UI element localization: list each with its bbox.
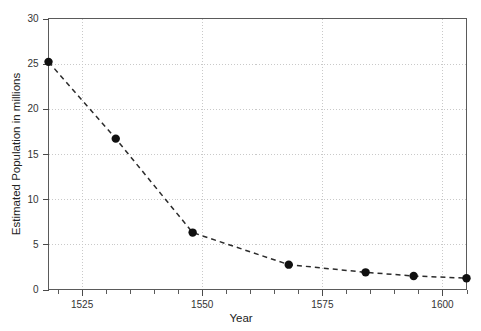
plot-background (0, 0, 481, 331)
data-point-marker-1568 (285, 260, 293, 268)
y-tick-label: 20 (27, 103, 39, 114)
chart-canvas: 1525155015751600 051015202530 Year Estim… (0, 0, 481, 331)
y-tick-label: 25 (27, 58, 39, 69)
y-tick-label: 0 (33, 284, 39, 295)
y-tick-label: 15 (27, 149, 39, 160)
y-tick-label: 30 (27, 13, 39, 24)
data-point-marker-1605 (462, 274, 470, 282)
x-tick-label: 1600 (431, 299, 454, 310)
data-point-marker-1518 (44, 58, 52, 66)
y-tick-label: 5 (33, 239, 39, 250)
y-axis-title: Estimated Population in millions (10, 73, 22, 236)
x-tick-label: 1525 (71, 299, 94, 310)
x-tick-label: 1550 (191, 299, 214, 310)
population-decline-chart: 1525155015751600 051015202530 Year Estim… (0, 0, 481, 331)
y-tick-label: 10 (27, 194, 39, 205)
data-point-marker-1532 (112, 134, 120, 142)
x-axis-title: Year (229, 312, 252, 324)
x-tick-label: 1575 (311, 299, 334, 310)
data-point-marker-1594 (409, 272, 417, 280)
data-point-marker-1584 (361, 268, 369, 276)
data-point-marker-1548 (188, 228, 196, 236)
